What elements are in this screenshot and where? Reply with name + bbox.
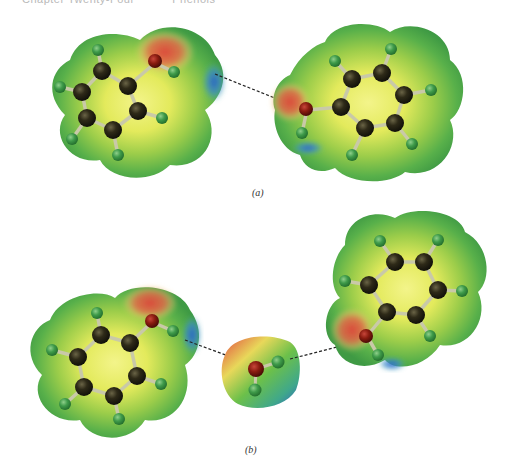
phenol-molecule-a-right bbox=[270, 24, 463, 181]
hydrogen-atom bbox=[385, 43, 397, 55]
hydrogen-atom bbox=[112, 149, 124, 161]
carbon-atom bbox=[332, 98, 350, 116]
hydroxyl-hydrogen-atom bbox=[296, 127, 308, 139]
carbon-atom bbox=[373, 64, 391, 82]
carbon-atom bbox=[69, 348, 87, 366]
panel-a bbox=[52, 24, 463, 181]
phenol-molecule-b-right bbox=[326, 211, 487, 371]
carbon-atom bbox=[78, 109, 96, 127]
positive-region bbox=[182, 315, 202, 355]
panel-b bbox=[30, 211, 486, 438]
hydrogen-atom bbox=[432, 234, 444, 246]
carbon-atom bbox=[119, 77, 137, 95]
hydrogen-atom bbox=[249, 384, 262, 397]
carbon-atom bbox=[429, 281, 447, 299]
hydrogen-atom bbox=[425, 84, 437, 96]
oxygen-atom bbox=[148, 54, 162, 68]
carbon-atom bbox=[360, 276, 378, 294]
carbon-atom bbox=[378, 303, 396, 321]
hydrogen-atom bbox=[272, 356, 285, 369]
hydrogen-atom bbox=[374, 235, 386, 247]
carbon-atom bbox=[343, 70, 361, 88]
carbon-atom bbox=[105, 387, 123, 405]
carbon-atom bbox=[75, 378, 93, 396]
hydrogen-atom bbox=[91, 307, 103, 319]
carbon-atom bbox=[386, 253, 404, 271]
hydroxyl-hydrogen-atom bbox=[168, 66, 180, 78]
water-molecule bbox=[222, 336, 300, 407]
hydrogen-atom bbox=[339, 275, 351, 287]
hydroxyl-hydrogen-atom bbox=[372, 349, 384, 361]
positive-region bbox=[202, 62, 226, 102]
hydrogen-atom bbox=[329, 55, 341, 67]
carbon-atom bbox=[93, 62, 111, 80]
hydrogen-atom bbox=[113, 413, 125, 425]
carbon-atom bbox=[128, 367, 146, 385]
hydrogen-atom bbox=[155, 378, 167, 390]
panel-a-caption: (a) bbox=[252, 187, 264, 198]
hydrogen-atom bbox=[66, 133, 78, 145]
phenol-molecule-a-left bbox=[52, 27, 226, 178]
carbon-atom bbox=[92, 326, 110, 344]
hydrogen-atom bbox=[456, 285, 468, 297]
hydrogen-bonding-figure bbox=[0, 0, 509, 472]
hydrogen-atom bbox=[92, 44, 104, 56]
carbon-atom bbox=[104, 121, 122, 139]
carbon-atom bbox=[73, 83, 91, 101]
carbon-atom bbox=[386, 114, 404, 132]
phenol-molecule-b-left bbox=[30, 285, 202, 438]
hydrogen-atom bbox=[59, 398, 71, 410]
hydrogen-atom bbox=[156, 112, 168, 124]
hydrogen-atom bbox=[424, 330, 436, 342]
carbon-atom bbox=[415, 253, 433, 271]
carbon-atom bbox=[407, 306, 425, 324]
carbon-atom bbox=[121, 334, 139, 352]
carbon-atom bbox=[356, 119, 374, 137]
oxygen-atom bbox=[359, 329, 373, 343]
oxygen-atom bbox=[248, 361, 264, 377]
hydrogen-atom bbox=[406, 138, 418, 150]
hydrogen-atom bbox=[46, 344, 58, 356]
carbon-atom bbox=[395, 86, 413, 104]
positive-region bbox=[292, 141, 324, 155]
oxygen-atom bbox=[299, 102, 313, 116]
oxygen-atom bbox=[145, 314, 159, 328]
hydroxyl-hydrogen-atom bbox=[167, 325, 179, 337]
hydrogen-atom bbox=[346, 149, 358, 161]
panel-b-caption: (b) bbox=[245, 444, 257, 455]
carbon-atom bbox=[129, 102, 147, 120]
hydrogen-atom bbox=[54, 81, 66, 93]
